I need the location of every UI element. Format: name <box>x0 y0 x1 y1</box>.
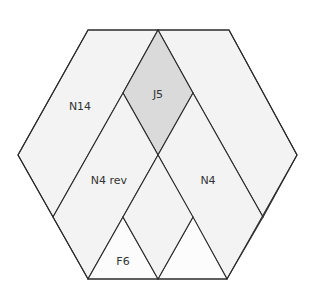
label-j5: J5 <box>153 88 163 101</box>
label-n14: N14 <box>69 100 91 113</box>
hexagon-shapes <box>0 0 317 300</box>
label-n4-rev: N4 rev <box>91 174 127 187</box>
label-n4: N4 <box>200 174 215 187</box>
hexagon-block-diagram: N14 J5 N4 rev N4 F6 <box>0 0 317 300</box>
label-f6: F6 <box>116 255 129 268</box>
